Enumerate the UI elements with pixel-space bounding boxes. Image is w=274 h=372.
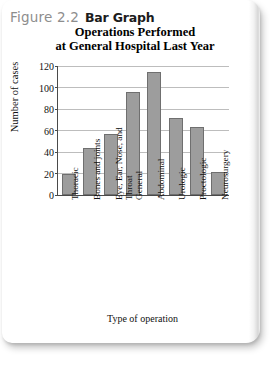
y-axis-tick-label: 0 xyxy=(49,190,54,201)
x-axis-tick-label: Eye, Ear, Nose, and Throat xyxy=(115,114,134,200)
chart-title-line-1: Operations Performed xyxy=(28,26,242,40)
x-axis-tick-label: Proctologic xyxy=(199,158,209,200)
y-axis-tick-label: 40 xyxy=(44,147,54,158)
y-axis-tick xyxy=(55,66,58,67)
y-axis-tick-label: 20 xyxy=(44,168,54,179)
page-curl-shading xyxy=(244,0,260,343)
chart-title-line-2: at General Hospital Last Year xyxy=(28,40,242,54)
chart-title: Operations Performed at General Hospital… xyxy=(28,26,242,53)
x-axis-tick-label: Abdominal xyxy=(157,159,167,200)
x-axis-tick-label: Thoracic xyxy=(71,167,81,200)
y-axis-tick xyxy=(55,109,58,110)
y-axis-tick-label: 80 xyxy=(44,104,54,115)
y-axis-tick xyxy=(55,195,58,196)
figure-caption: Figure 2.2Bar Graph xyxy=(10,7,154,26)
x-axis-title: Type of operation xyxy=(57,313,228,324)
y-axis-tick-label: 60 xyxy=(44,125,54,136)
gridline xyxy=(58,109,229,110)
y-axis-tick xyxy=(55,87,58,88)
y-axis-tick-label: 100 xyxy=(39,82,54,93)
y-axis-tick xyxy=(55,152,58,153)
figure-number: Figure 2.2 xyxy=(10,9,79,25)
x-axis-tick-label: Neurosurgery xyxy=(221,150,231,200)
y-axis-tick-label: 120 xyxy=(39,61,54,72)
gridline xyxy=(58,66,229,67)
x-axis-tick-label: Urologic xyxy=(178,167,188,200)
figure-label: Bar Graph xyxy=(85,10,154,25)
y-axis-title: Number of cases xyxy=(9,62,20,133)
x-axis-tick-label: Bones and joints xyxy=(93,139,103,200)
figure-page: Figure 2.2Bar Graph Operations Performed… xyxy=(0,0,274,372)
x-axis-tick-label: General xyxy=(135,171,145,200)
gridline xyxy=(58,87,229,88)
y-axis-tick xyxy=(55,173,58,174)
y-axis-tick xyxy=(55,130,58,131)
